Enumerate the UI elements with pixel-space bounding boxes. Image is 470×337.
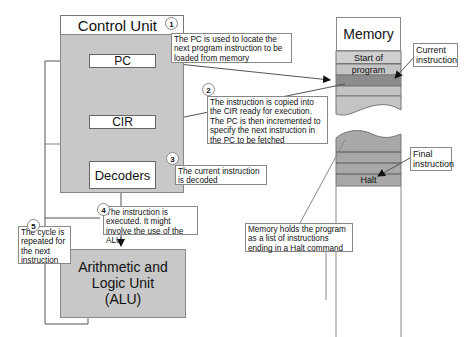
step-2-badge: 2 bbox=[202, 83, 215, 96]
memory-start-label: Start of program bbox=[336, 52, 401, 64]
step-4-badge: 4 bbox=[97, 203, 110, 216]
step-3-note: The current instruction is decoded bbox=[175, 165, 267, 185]
step-1-badge: 1 bbox=[165, 17, 178, 30]
memory-note: Memory holds the program as a list of in… bbox=[245, 223, 353, 252]
step-1-note: The PC is used to locate the next progra… bbox=[171, 33, 292, 63]
memory-column bbox=[336, 51, 401, 337]
step-3-badge: 3 bbox=[166, 152, 179, 165]
memory-title: Memory bbox=[336, 17, 401, 51]
alu-line-3: (ALU) bbox=[61, 291, 185, 307]
decoders-block: Decoders bbox=[89, 161, 156, 189]
step-5-badge: 5 bbox=[27, 219, 40, 232]
alu-block: Arithmetic and Logic Unit (ALU) bbox=[60, 249, 186, 318]
cir-register: CIR bbox=[89, 115, 156, 129]
alu-line-2: Logic Unit bbox=[61, 275, 185, 291]
step-5-note: The cycle is repeated for the next instr… bbox=[18, 226, 71, 264]
current-instruction-label: Current instruction bbox=[413, 43, 458, 67]
memory-halt-label: Halt bbox=[336, 175, 401, 186]
memory-band bbox=[336, 86, 401, 96]
step-4-note: The instruction is executed. It might in… bbox=[103, 206, 198, 235]
final-instruction-label: Final instruction bbox=[410, 147, 452, 171]
pc-register: PC bbox=[89, 54, 156, 68]
memory-band-current bbox=[336, 75, 401, 86]
alu-line-1: Arithmetic and bbox=[61, 259, 185, 275]
step-2-note: The instruction is copied into the CIR r… bbox=[207, 96, 328, 144]
memory-break-top bbox=[336, 96, 401, 115]
